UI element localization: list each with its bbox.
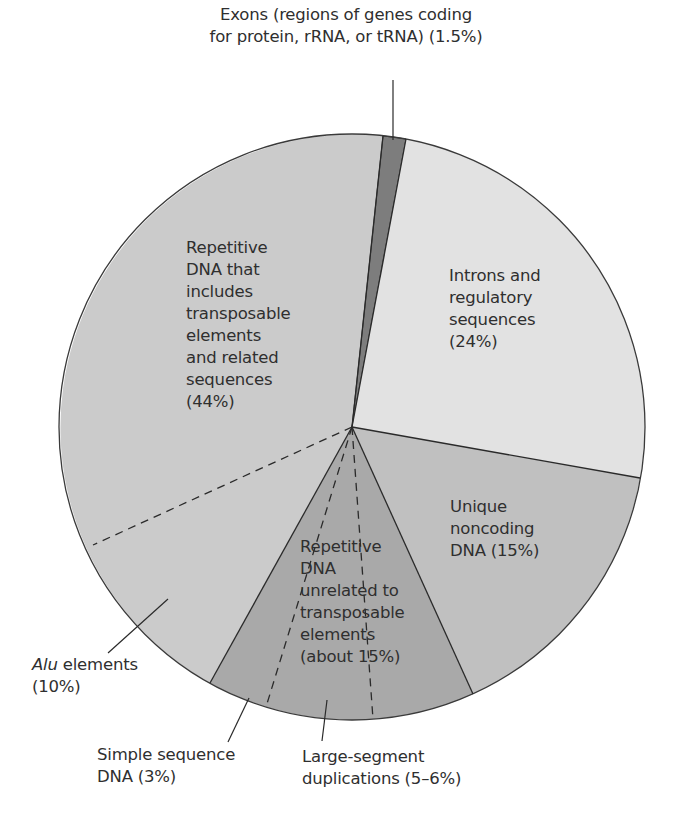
- label-line: regulatory: [449, 287, 540, 309]
- label-transposable: Repetitive DNA that includes transposabl…: [186, 237, 291, 413]
- label-line: elements: [300, 624, 405, 646]
- label-simple-sequence: Simple sequence DNA (3%): [97, 744, 235, 788]
- label-line: transposable: [300, 602, 405, 624]
- label-line: Unique: [450, 496, 539, 518]
- label-line: DNA (15%): [450, 540, 539, 562]
- label-line: transposable: [186, 303, 291, 325]
- label-alu: Alu elements (10%): [32, 654, 138, 698]
- label-line: sequences: [186, 369, 291, 391]
- label-line: includes: [186, 281, 291, 303]
- label-exons-line1: Exons (regions of genes coding: [186, 4, 506, 26]
- label-line: Introns and: [449, 265, 540, 287]
- label-exons: Exons (regions of genes coding for prote…: [186, 4, 506, 48]
- label-line: DNA that: [186, 259, 291, 281]
- label-repetitive-unrelated: Repetitive DNA unrelated to transposable…: [300, 536, 405, 668]
- label-line: Repetitive: [300, 536, 405, 558]
- label-line: Repetitive: [186, 237, 291, 259]
- label-large-segment: Large-segment duplications (5–6%): [302, 746, 461, 790]
- label-line: noncoding: [450, 518, 539, 540]
- label-alu-rest: elements: [58, 655, 138, 674]
- label-line: sequences: [449, 309, 540, 331]
- label-line: (about 15%): [300, 646, 405, 668]
- label-line: Large-segment: [302, 746, 461, 768]
- label-line: DNA: [300, 558, 405, 580]
- label-alu-italic: Alu: [32, 655, 58, 674]
- label-alu-line2: (10%): [32, 676, 138, 698]
- label-line: DNA (3%): [97, 766, 235, 788]
- leader-simple-sequence: [228, 698, 249, 742]
- label-line: (24%): [449, 331, 540, 353]
- label-unique-noncoding: Unique noncoding DNA (15%): [450, 496, 539, 562]
- label-alu-line1: Alu elements: [32, 654, 138, 676]
- label-introns: Introns and regulatory sequences (24%): [449, 265, 540, 353]
- label-line: elements: [186, 325, 291, 347]
- label-line: Simple sequence: [97, 744, 235, 766]
- label-line: (44%): [186, 391, 291, 413]
- label-exons-line2: for protein, rRNA, or tRNA) (1.5%): [186, 26, 506, 48]
- label-line: unrelated to: [300, 580, 405, 602]
- label-line: and related: [186, 347, 291, 369]
- label-line: duplications (5–6%): [302, 768, 461, 790]
